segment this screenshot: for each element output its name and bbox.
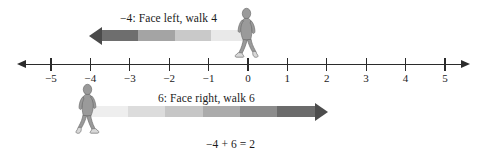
tick-mark	[326, 58, 327, 71]
tick-label: −3	[110, 72, 150, 85]
tick-mark	[169, 58, 170, 71]
arrow-segment	[138, 30, 175, 41]
walking-person-at-zero-icon	[231, 7, 261, 61]
tick-mark	[405, 58, 406, 71]
walk-right-arrow-bands	[90, 106, 314, 117]
tick-mark	[366, 58, 367, 71]
equation-label: −4 + 6 = 2	[206, 137, 255, 151]
axis-right-arrowhead-icon	[461, 60, 470, 68]
walk-right-arrow	[90, 106, 326, 117]
arrow-segment	[175, 30, 212, 41]
tick-mark	[50, 58, 51, 71]
axis-left-arrowhead-icon	[17, 60, 26, 68]
walk-left-arrowhead-icon	[89, 27, 102, 45]
walking-person-at-negative-four-icon	[73, 83, 103, 137]
walk-right-arrowhead-icon	[315, 103, 328, 121]
arrow-segment	[101, 30, 138, 41]
arrow-segment	[128, 106, 165, 117]
walk-left-arrow	[90, 30, 248, 41]
tick-mark	[90, 58, 91, 71]
walk-left-caption: −4: Face left, walk 4	[120, 11, 217, 25]
arrow-segment	[203, 106, 240, 117]
tick-label: −1	[189, 72, 229, 85]
tick-label: 0	[228, 72, 268, 85]
walk-left-arrow-bands	[101, 30, 248, 41]
number-line-figure: −5−4−3−2−1012345 −4: Face left, walk 4 6…	[0, 0, 492, 161]
tick-label: 4	[386, 72, 426, 85]
tick-label: 1	[267, 72, 307, 85]
arrow-segment	[240, 106, 277, 117]
tick-label: 3	[346, 72, 386, 85]
tick-mark	[208, 58, 209, 71]
tick-mark	[444, 58, 445, 71]
tick-mark	[129, 58, 130, 71]
walk-right-caption: 6: Face right, walk 6	[158, 91, 255, 105]
arrow-segment	[277, 106, 314, 117]
tick-mark	[287, 58, 288, 71]
arrow-segment	[165, 106, 202, 117]
tick-label: 5	[425, 72, 465, 85]
tick-label: −2	[149, 72, 189, 85]
tick-label: 2	[307, 72, 347, 85]
tick-label: −5	[31, 72, 71, 85]
